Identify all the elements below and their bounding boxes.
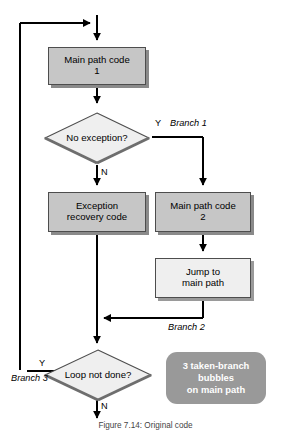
node-main-path-code-1[interactable]: Main path code 1	[48, 47, 146, 85]
callout-taken-branch-bubbles: 3 taken-branch bubbles on main path	[166, 352, 266, 404]
node-jump-to-main-line2: main path	[182, 277, 224, 288]
figure-caption: Figure 7.14: Original code	[0, 421, 291, 430]
node-exception-recovery-code[interactable]: Exception recovery code	[48, 192, 146, 232]
node-jump-to-main-path[interactable]: Jump to main path	[155, 258, 251, 298]
node-jump-to-main-line1: Jump to	[186, 266, 220, 277]
node-loop-not-done-decision[interactable]: Loop not done?	[42, 347, 154, 402]
callout-line1: 3 taken-branch	[183, 360, 250, 371]
node-loop-not-done-label: Loop not done?	[42, 347, 154, 402]
node-main-path-code-1-text: Main path code 1	[64, 55, 130, 76]
edge-label-exception-no: N	[101, 167, 108, 177]
node-exception-recovery-code-text: Exception recovery code	[67, 201, 127, 222]
node-exception-recovery-line2: recovery code	[67, 211, 127, 222]
edge-label-branch-3: Branch 3	[11, 373, 48, 383]
node-exception-recovery-line1: Exception	[76, 200, 118, 211]
node-no-exception-label: No exception?	[42, 110, 152, 165]
node-jump-to-main-path-text: Jump to main path	[182, 267, 224, 288]
edge-label-branch-2: Branch 2	[168, 322, 205, 332]
node-main-path-code-2[interactable]: Main path code 2	[155, 192, 251, 232]
node-main-path-code-1-line1: Main path code	[64, 54, 130, 65]
edge-label-branch-1: Branch 1	[170, 118, 207, 128]
edge-label-loop-yes: Y	[39, 358, 45, 368]
edge-label-loop-no: N	[101, 401, 108, 411]
node-main-path-code-2-text: Main path code 2	[170, 201, 236, 222]
node-main-path-code-1-line2: 1	[94, 65, 99, 76]
callout-line3: on main path	[187, 384, 245, 395]
node-no-exception-decision[interactable]: No exception?	[42, 110, 152, 165]
callout-line2: bubbles	[198, 372, 234, 383]
callout-text: 3 taken-branch bubbles on main path	[183, 360, 250, 395]
flowchart-canvas: Main path code 1 No exception? Exception…	[0, 0, 291, 431]
node-main-path-code-2-line1: Main path code	[170, 200, 236, 211]
edge-label-exception-yes: Y	[155, 118, 161, 128]
node-main-path-code-2-line2: 2	[200, 211, 205, 222]
